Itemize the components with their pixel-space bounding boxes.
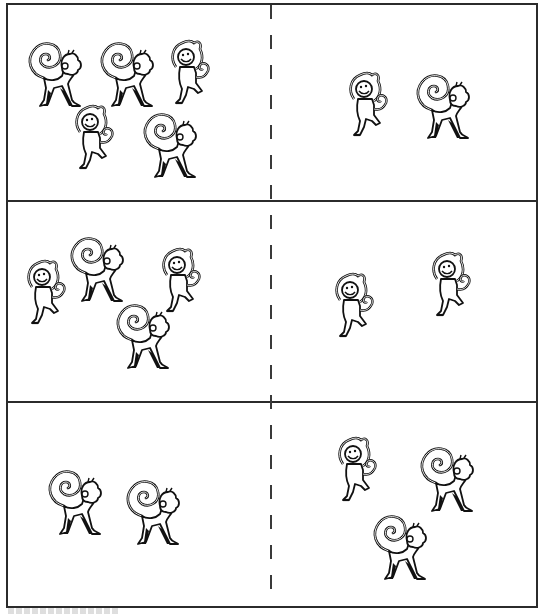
monkey-dancing-icon bbox=[427, 249, 473, 321]
monkey-walking-icon bbox=[137, 109, 197, 181]
dashed-cut-line bbox=[270, 5, 272, 604]
monkey-dancing-icon bbox=[157, 245, 203, 317]
monkey-dancing-icon bbox=[330, 270, 376, 342]
monkey-dancing-icon bbox=[166, 37, 212, 109]
monkey-walking-icon bbox=[22, 38, 82, 110]
monkey-walking-icon bbox=[414, 443, 474, 515]
monkey-dancing-icon bbox=[70, 102, 116, 174]
row-divider-2 bbox=[6, 401, 538, 403]
monkey-walking-icon bbox=[64, 233, 124, 305]
row-divider-1 bbox=[6, 200, 538, 202]
monkey-dancing-icon bbox=[22, 257, 68, 329]
monkey-walking-icon bbox=[410, 70, 470, 142]
monkey-walking-icon bbox=[42, 466, 102, 538]
monkey-dancing-icon bbox=[333, 434, 379, 506]
monkey-walking-icon bbox=[367, 511, 427, 583]
monkey-dancing-icon bbox=[344, 69, 390, 141]
monkey-walking-icon bbox=[94, 38, 154, 110]
footer-copyright-text bbox=[8, 608, 118, 614]
monkey-walking-icon bbox=[120, 476, 180, 548]
